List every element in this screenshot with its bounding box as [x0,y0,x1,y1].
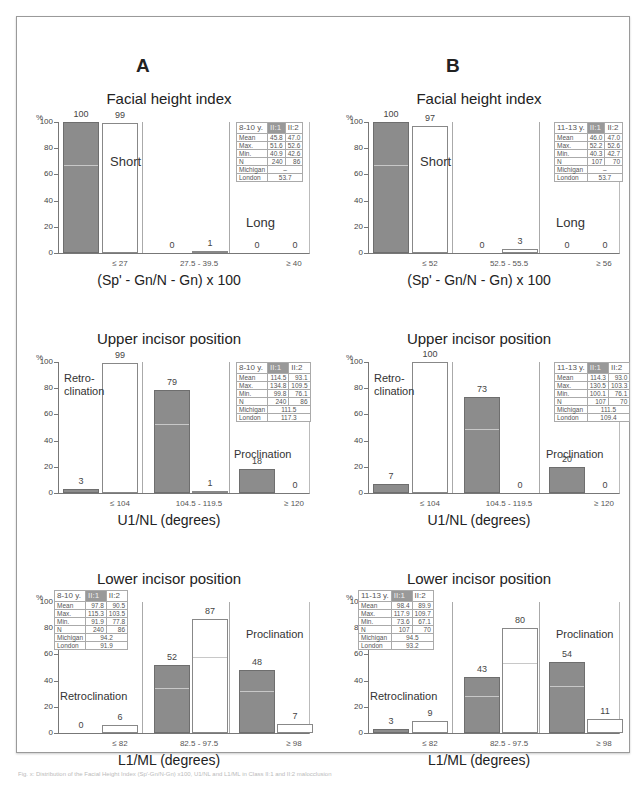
y-tick-label: 100 [31,117,53,126]
stat-ii1: 100.1 [587,390,608,398]
y-tick-label: 80 [31,623,53,632]
stat-ii1: 114.3 [587,374,608,382]
header-ii2: II:2 [106,591,127,602]
bar-value-label: 0 [505,480,535,490]
ref-value: 117.3 [268,414,311,422]
x-tick-label: ≤ 52 [390,259,470,268]
bar-value-label: 100 [376,109,406,119]
stat-ii2: 103.5 [106,610,127,618]
y-tick-mark [364,388,369,389]
stat-ii1: 97.8 [86,602,107,610]
bar-ii2 [192,251,228,253]
bar-ii1 [464,397,500,493]
stat-ii1: 98.4 [391,602,412,610]
bar-ii2 [102,363,138,493]
stat-ii1: 99.8 [268,390,289,398]
stat-ii2: 67.1 [412,618,433,626]
bar-ii2 [412,126,448,253]
y-tick-mark [364,122,369,123]
stats-row: Min. 91.9 77.8 [55,618,128,626]
ref-label: Michigan [555,406,588,414]
annotation-right: Proclination [546,448,603,461]
y-tick-mark [54,122,59,123]
ref-label: Michigan [359,634,392,642]
bar-value-label: 100 [415,349,445,359]
stat-label: Max. [555,142,588,150]
stats-row: Max. 52.2 52.6 [555,142,623,150]
ref-value: 111.5 [268,406,311,414]
bar-value-label: 11 [590,706,620,716]
y-tick-mark [54,681,59,682]
stat-ii2: 42.6 [285,150,303,158]
bar-value-label: 99 [105,110,135,120]
x-tick-label: 27.5 - 39.5 [159,259,239,268]
stat-label: Max. [359,610,392,618]
stat-ii1: 40.3 [587,150,605,158]
ref-value: 53.7 [268,174,303,182]
bar-value-label: 52 [157,652,187,662]
y-tick-mark [54,388,59,389]
ref-label: London [237,174,268,182]
bar-value-label: 3 [66,476,96,486]
stats-row: Max. 117.9 109.7 [359,610,434,618]
stat-ii1: 107 [391,626,412,634]
chart-title: Upper incisor position [30,330,308,347]
x-tick-label: 82.5 - 97.5 [159,739,239,748]
stat-label: Min. [55,618,86,626]
y-tick-label: 60 [31,169,53,178]
y-tick-label: 0 [341,248,363,257]
stat-ii2: 89.9 [412,602,433,610]
chart-title: Lower incisor position [340,570,618,587]
x-tick-label: ≤ 104 [80,499,160,508]
x-tick-label: 52.5 - 55.5 [469,259,549,268]
stats-row: N 240 86 [237,158,303,166]
y-tick-label: 60 [341,169,363,178]
ref-value: 93.2 [391,642,433,650]
y-tick-mark [54,733,59,734]
annotation-left: Retroclination [60,690,127,703]
header-ii2: II:2 [605,123,623,134]
stats-table: 8-10 y. II:1 II:2 Mean 97.8 90.5 Max. 11… [54,590,128,650]
header-ii1: II:1 [391,591,412,602]
stat-ii2: 93.1 [289,374,310,382]
bar-ii2 [102,725,138,733]
stats-row: Min. 73.6 67.1 [359,618,434,626]
bar-ii2 [502,249,538,253]
bar-value-label: 97 [415,113,445,123]
stat-label: N [237,398,268,406]
header-ii2: II:2 [285,123,303,134]
y-tick-mark [364,733,369,734]
age-group: 11-13 y. [359,591,392,602]
bar-ii2 [192,619,228,733]
stat-label: Mean [359,602,392,610]
stat-label: Min. [555,150,588,158]
y-tick-mark [364,201,369,202]
stats-row: Min. 100.1 76.1 [555,390,630,398]
stats-row: Min. 40.9 42.6 [237,150,303,158]
chart-title: Upper incisor position [340,330,618,347]
stat-ii2: 52.6 [285,142,303,150]
bar-value-label: 0 [280,480,310,490]
y-tick-mark [364,227,369,228]
y-tick-mark [364,174,369,175]
y-tick-label: 100 [31,357,53,366]
stat-label: N [555,158,588,166]
annotation-left: Retro- clination [374,372,414,398]
x-tick-label: ≥ 120 [254,499,334,508]
annotation-left: Short [110,155,141,168]
stat-ii2: 47.0 [285,134,303,142]
group-separator [229,602,230,733]
bar-ii1 [63,489,99,493]
group-separator [142,122,143,253]
age-group: 11-13 y. [555,363,588,374]
group-separator [452,362,453,493]
annotation-left: Retroclination [370,690,437,703]
bar-value-label: 0 [590,480,620,490]
stat-ii1: 107 [587,398,608,406]
stat-ii1: 52.2 [587,142,605,150]
stat-ii1: 115.3 [86,610,107,618]
bar-ii1 [464,677,500,733]
bar-ii1 [154,390,190,493]
stats-header-row: 11-13 y. II:1 II:2 [555,363,630,374]
stat-ii2: 52.6 [605,142,623,150]
